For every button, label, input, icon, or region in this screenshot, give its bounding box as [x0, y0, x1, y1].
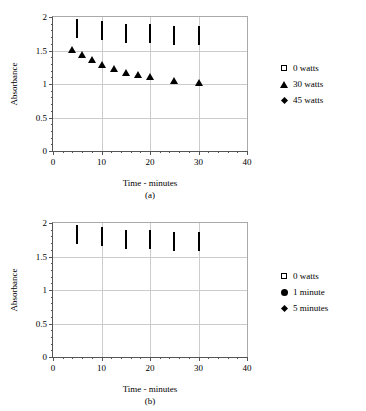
x-axis-minor-tick	[169, 357, 170, 359]
marker-open-square	[173, 26, 175, 45]
x-axis-tick-label: 10	[97, 157, 106, 167]
plot-area-b: 00.511.52010203040	[52, 222, 248, 358]
y-axis-minor-tick	[51, 44, 53, 45]
x-axis-minor-tick	[140, 357, 141, 359]
x-axis-tick	[150, 151, 151, 155]
legend-item: 1 minute	[278, 284, 328, 300]
x-axis-minor-tick	[208, 357, 209, 359]
y-axis-minor-tick	[51, 37, 53, 38]
y-axis-tick-label: 1	[43, 79, 48, 89]
x-axis-tick-label: 20	[146, 157, 155, 167]
data-point	[101, 228, 103, 246]
y-axis-minor-tick	[51, 131, 53, 132]
x-axis-minor-tick	[72, 151, 73, 153]
x-axis-minor-tick	[63, 151, 64, 153]
y-axis-minor-tick	[51, 263, 53, 264]
legend-label: 45 watts	[293, 95, 323, 105]
data-point	[195, 62, 203, 80]
marker-open-square	[173, 232, 175, 251]
x-axis-minor-tick	[218, 357, 219, 359]
x-axis-tick-label: 40	[243, 157, 252, 167]
y-axis-minor-tick	[51, 236, 53, 237]
x-axis-tick	[102, 357, 103, 361]
x-axis-minor-tick	[82, 151, 83, 153]
x-axis-tick-label: 10	[97, 363, 106, 373]
y-axis-tick-label: 0	[43, 146, 48, 156]
x-axis-minor-tick	[237, 151, 238, 153]
legend-marker	[278, 98, 290, 103]
x-axis-minor-tick	[208, 151, 209, 153]
x-axis-tick-label: 0	[51, 363, 56, 373]
data-point	[68, 29, 76, 47]
x-axis-title-b: Time - minutes	[123, 384, 178, 394]
x-axis-minor-tick	[218, 151, 219, 153]
x-axis-tick-label: 40	[243, 363, 252, 373]
marker-filled-triangle	[110, 48, 118, 72]
legend-label: 1 minute	[293, 287, 325, 297]
y-axis-tick-label: 2	[43, 12, 48, 22]
legend-item: 5 minutes	[278, 300, 328, 316]
y-axis-title-b: Absorbance	[9, 269, 19, 312]
x-axis-minor-tick	[189, 357, 190, 359]
marker-filled-triangle	[280, 81, 288, 88]
y-axis-minor-tick	[51, 297, 53, 298]
y-axis-minor-tick	[51, 138, 53, 139]
marker-filled-diamond	[280, 304, 287, 311]
y-axis-minor-tick	[51, 111, 53, 112]
panel-a: Absorbance 00.511.52010203040 Time - min…	[0, 0, 366, 205]
data-point	[98, 44, 106, 62]
x-axis-tick	[247, 357, 248, 361]
x-axis-tick	[150, 357, 151, 361]
marker-open-square	[149, 230, 151, 249]
x-axis-tick	[102, 151, 103, 155]
data-point	[170, 60, 178, 78]
marker-open-square	[101, 21, 103, 40]
legend-item: 0 watts	[278, 60, 323, 76]
legend-marker	[278, 81, 290, 88]
data-point	[149, 25, 151, 43]
x-axis-tick	[199, 357, 200, 361]
data-point	[110, 48, 118, 66]
x-axis-tick	[199, 151, 200, 155]
y-axis-minor-tick	[51, 350, 53, 351]
x-axis-minor-tick	[179, 151, 180, 153]
x-axis-minor-tick	[72, 357, 73, 359]
data-point	[88, 39, 96, 57]
x-axis-minor-tick	[82, 357, 83, 359]
x-axis-minor-tick	[160, 357, 161, 359]
marker-filled-triangle	[98, 44, 106, 68]
y-axis-minor-tick	[51, 337, 53, 338]
panel-caption-b: (b)	[145, 396, 156, 406]
x-axis-title-a: Time - minutes	[123, 178, 178, 188]
x-axis-minor-tick	[63, 357, 64, 359]
y-axis-tick	[49, 223, 53, 224]
data-point	[173, 27, 175, 45]
legend-item: 45 watts	[278, 92, 323, 108]
marker-open-square	[281, 65, 287, 71]
x-axis-minor-tick	[131, 151, 132, 153]
legend-marker	[278, 306, 290, 311]
y-axis-minor-tick	[51, 317, 53, 318]
x-axis-tick-label: 0	[51, 157, 56, 167]
y-axis-minor-tick	[51, 283, 53, 284]
marker-open-square	[149, 24, 151, 43]
marker-filled-diamond	[280, 96, 287, 103]
x-axis-tick-label: 20	[146, 363, 155, 373]
marker-open-square	[125, 230, 127, 249]
y-axis-minor-tick	[51, 57, 53, 58]
x-axis-minor-tick	[121, 357, 122, 359]
legend-marker	[278, 65, 290, 71]
legend-marker	[278, 273, 290, 279]
marker-filled-triangle	[122, 52, 130, 76]
data-point	[173, 233, 175, 251]
x-axis-minor-tick	[189, 151, 190, 153]
y-axis-tick-label: 0	[43, 352, 48, 362]
x-axis-minor-tick	[237, 357, 238, 359]
data-point	[122, 52, 130, 70]
data-point	[198, 27, 200, 45]
legend-label: 30 watts	[293, 79, 323, 89]
marker-open-square	[198, 232, 200, 251]
y-axis-tick-label: 0.5	[36, 113, 47, 123]
marker-open-square	[198, 26, 200, 45]
marker-filled-triangle	[88, 39, 96, 63]
